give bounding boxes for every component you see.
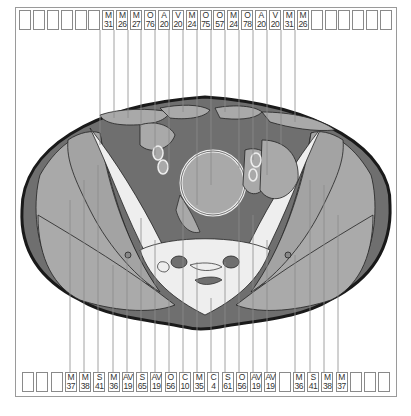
label-box: M 37: [65, 372, 77, 392]
label-box: M 38: [321, 372, 333, 392]
label-box: [364, 372, 376, 392]
label-box: V 20: [172, 10, 184, 30]
label-number: 76: [146, 20, 154, 29]
label-box: [88, 10, 100, 30]
label-number: 41: [95, 382, 103, 391]
label-box: AV 19: [150, 372, 162, 392]
label-number: 36: [109, 382, 117, 391]
label-box: M 36: [108, 372, 120, 392]
label-box: M 24: [227, 10, 239, 30]
label-box: A 20: [255, 10, 267, 30]
label-number: 20: [271, 20, 279, 29]
label-box: S 65: [136, 372, 148, 392]
label-number: 19: [266, 382, 274, 391]
label-box: S 61: [222, 372, 234, 392]
label-box: M 31: [102, 10, 114, 30]
label-box: [352, 10, 364, 30]
label-number: 41: [309, 382, 317, 391]
label-number: 56: [238, 382, 246, 391]
label-box: M 31: [283, 10, 295, 30]
label-box: [19, 10, 31, 30]
label-box: S 41: [307, 372, 319, 392]
label-box: AV 19: [264, 372, 276, 392]
label-number: 19: [152, 382, 160, 391]
label-box: [378, 372, 390, 392]
label-box: M 35: [193, 372, 205, 392]
label-number: 38: [81, 382, 89, 391]
label-box: M 36: [293, 372, 305, 392]
label-number: 20: [174, 20, 182, 29]
label-box: O 57: [213, 10, 225, 30]
top-label-row: M 31 M 26 M 27 O 76 A 20 V 20 M 24 O 75 …: [19, 10, 394, 30]
label-box: [350, 372, 362, 392]
bottom-label-row: M 37 M 38 S 41 M 36 AV 19 S 65 AV 19 O 5…: [22, 372, 393, 392]
label-box: S 41: [93, 372, 105, 392]
bladder-wall: [181, 151, 245, 215]
label-number: 75: [201, 20, 209, 29]
label-number: 31: [104, 20, 112, 29]
label-number: 24: [229, 20, 237, 29]
label-box: M 26: [297, 10, 309, 30]
label-number: 10: [181, 382, 189, 391]
label-number: 26: [118, 20, 126, 29]
label-box: C 4: [207, 372, 219, 392]
label-box: [380, 10, 392, 30]
label-number: 4: [211, 382, 215, 391]
label-box: [75, 10, 87, 30]
label-box: A 20: [158, 10, 170, 30]
label-box: O 78: [241, 10, 253, 30]
label-number: 61: [223, 382, 231, 391]
label-number: 19: [124, 382, 132, 391]
label-box: [51, 372, 63, 392]
label-box: O 56: [236, 372, 248, 392]
label-number: 35: [195, 382, 203, 391]
label-box: M 37: [336, 372, 348, 392]
label-number: 65: [138, 382, 146, 391]
label-box: O 76: [144, 10, 156, 30]
label-box: [366, 10, 378, 30]
label-number: 26: [299, 20, 307, 29]
label-number: 20: [160, 20, 168, 29]
label-number: 38: [323, 382, 331, 391]
label-number: 37: [337, 382, 345, 391]
label-number: 36: [295, 382, 303, 391]
label-box: M 24: [186, 10, 198, 30]
label-number: 78: [243, 20, 251, 29]
label-box: [33, 10, 45, 30]
label-box: [36, 372, 48, 392]
label-box: C 10: [179, 372, 191, 392]
label-box: AV 19: [122, 372, 134, 392]
label-box: [22, 372, 34, 392]
label-number: 31: [285, 20, 293, 29]
label-number: 56: [166, 382, 174, 391]
label-box: M 26: [116, 10, 128, 30]
label-box: [311, 10, 323, 30]
label-number: 24: [187, 20, 195, 29]
label-box: [338, 10, 350, 30]
label-box: AV 19: [250, 372, 262, 392]
label-box: O 75: [200, 10, 212, 30]
label-box: [47, 10, 59, 30]
anatomy-cross-section: [0, 0, 411, 416]
label-box: V 20: [269, 10, 281, 30]
label-number: 27: [132, 20, 140, 29]
label-number: 37: [67, 382, 75, 391]
label-box: O 56: [165, 372, 177, 392]
label-number: 57: [215, 20, 223, 29]
label-box: M 38: [79, 372, 91, 392]
label-number: 20: [257, 20, 265, 29]
label-box: [61, 10, 73, 30]
label-box: [325, 10, 337, 30]
label-number: 19: [252, 382, 260, 391]
label-box: [279, 372, 291, 392]
label-box: M 27: [130, 10, 142, 30]
